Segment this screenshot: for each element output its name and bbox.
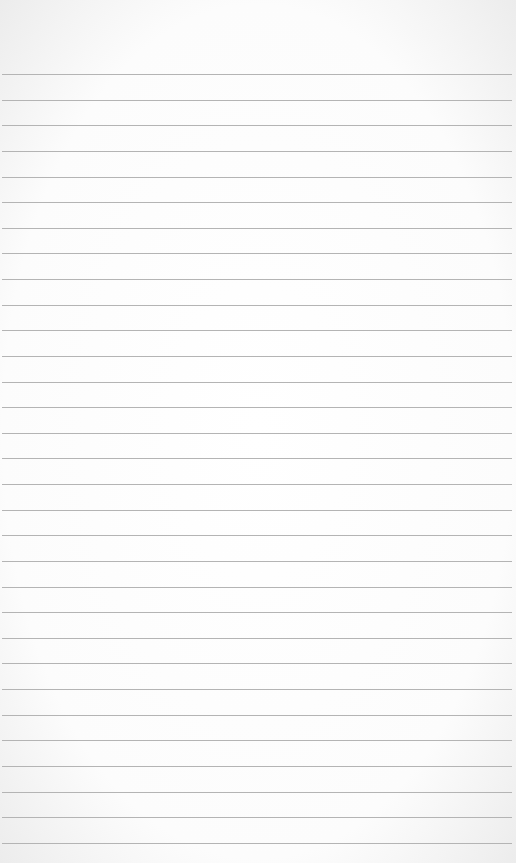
ruled-line <box>2 151 512 152</box>
ruled-line <box>2 407 512 408</box>
ruled-line <box>2 202 512 203</box>
ruled-line <box>2 125 512 126</box>
ruled-line <box>2 715 512 716</box>
ruled-line <box>2 228 512 229</box>
ruled-line <box>2 253 512 254</box>
ruled-line <box>2 74 512 75</box>
ruled-line <box>2 305 512 306</box>
ruled-line <box>2 638 512 639</box>
ruled-line <box>2 561 512 562</box>
ruled-line <box>2 817 512 818</box>
ruled-line <box>2 535 512 536</box>
ruled-line <box>2 766 512 767</box>
ruled-line <box>2 587 512 588</box>
ruled-line <box>2 689 512 690</box>
ruled-line <box>2 612 512 613</box>
ruled-line <box>2 663 512 664</box>
ruled-line <box>2 177 512 178</box>
ruled-line <box>2 279 512 280</box>
lined-paper <box>0 0 516 863</box>
ruled-line <box>2 458 512 459</box>
ruled-line <box>2 510 512 511</box>
ruled-line <box>2 792 512 793</box>
ruled-line <box>2 382 512 383</box>
ruled-line <box>2 484 512 485</box>
ruled-line <box>2 843 512 844</box>
ruled-line <box>2 100 512 101</box>
ruled-line <box>2 330 512 331</box>
ruled-line <box>2 433 512 434</box>
ruled-line <box>2 356 512 357</box>
ruled-line <box>2 740 512 741</box>
